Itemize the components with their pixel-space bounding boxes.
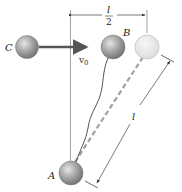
- velocity-label: v0: [78, 55, 89, 67]
- length-dimension-upper: [140, 61, 170, 105]
- half-length-denominator: 2: [106, 17, 112, 27]
- ball-a-label: A: [47, 170, 55, 181]
- slack-string: [76, 58, 108, 162]
- dashed-final-position-line: [75, 57, 143, 162]
- half-length-numerator: l: [107, 4, 110, 15]
- ball-b-label: B: [122, 27, 130, 38]
- ball-b: [101, 35, 125, 59]
- ball-a: [59, 161, 83, 185]
- length-dimension-lower: [97, 124, 130, 183]
- ghost-ball-final-position: [135, 35, 159, 59]
- length-extension-bottom: [85, 181, 98, 188]
- ball-c-label: C: [5, 42, 13, 53]
- length-label: l: [132, 111, 135, 122]
- velocity-subscript: 0: [84, 59, 88, 67]
- pendulum-collision-diagram: l 2 l C v0 B A: [0, 0, 182, 192]
- length-extension-top: [161, 55, 174, 62]
- ball-c: [16, 36, 39, 59]
